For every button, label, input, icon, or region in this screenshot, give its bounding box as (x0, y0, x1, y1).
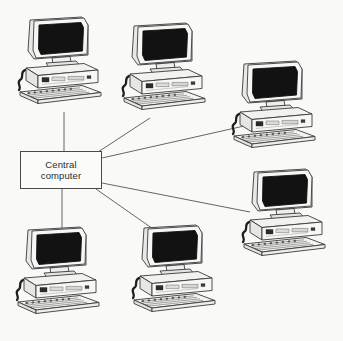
pc-top-left (8, 8, 108, 108)
pc-bottom-center (122, 216, 222, 316)
central-computer-box: Central computer (20, 151, 102, 189)
pc-bottom-left (6, 218, 106, 318)
central-computer-label-line2: computer (41, 170, 81, 182)
link-pc-middle-right (102, 183, 250, 212)
link-pc-top-center (98, 118, 150, 152)
pc-top-right (222, 52, 322, 152)
network-diagram-canvas: Central computer (0, 0, 343, 341)
pc-middle-right (232, 160, 332, 260)
pc-top-center (112, 14, 212, 114)
central-computer-label-line1: Central (45, 159, 76, 171)
